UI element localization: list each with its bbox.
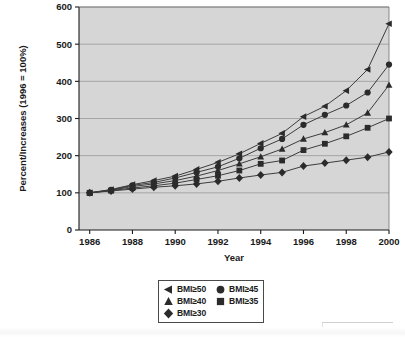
legend-grid: BMI≥50BMI≥45BMI≥40BMI≥35BMI≥30 bbox=[163, 284, 258, 319]
scan-artifact bbox=[0, 327, 405, 337]
legend-entry-0[interactable]: BMI≥50 bbox=[163, 284, 206, 295]
x-tick-label-1996: 1996 bbox=[293, 236, 314, 247]
legend-entry-4[interactable]: BMI≥30 bbox=[163, 308, 206, 319]
x-tick-label-1986: 1986 bbox=[79, 236, 100, 247]
scan-artifact-tick bbox=[322, 322, 393, 327]
marker-circle bbox=[279, 136, 285, 142]
x-tick-label-1990: 1990 bbox=[165, 236, 186, 247]
legend-marker-circle-icon bbox=[215, 284, 226, 295]
y-tick-label-500: 500 bbox=[56, 39, 72, 50]
x-tick-label-1998: 1998 bbox=[336, 236, 357, 247]
legend-entry-label: BMI≥40 bbox=[177, 296, 206, 307]
figure: 0100200300400500600198619881990199219941… bbox=[0, 0, 405, 337]
marker-circle bbox=[300, 122, 306, 128]
x-tick-label-1992: 1992 bbox=[207, 236, 228, 247]
legend-entry-1[interactable]: BMI≥45 bbox=[215, 284, 258, 295]
legend-entry-3[interactable]: BMI≥35 bbox=[215, 296, 258, 307]
marker-circle bbox=[386, 62, 392, 68]
x-axis-title: Year bbox=[224, 252, 244, 262]
marker-triangle bbox=[164, 297, 173, 305]
marker-square bbox=[322, 141, 328, 147]
x-tick-label-1994: 1994 bbox=[250, 236, 272, 247]
x-tick-label-1988: 1988 bbox=[122, 236, 143, 247]
marker-circle bbox=[217, 286, 225, 294]
marker-square bbox=[343, 133, 349, 139]
legend-entry-2[interactable]: BMI≥40 bbox=[163, 296, 206, 307]
y-tick-label-400: 400 bbox=[56, 76, 72, 87]
marker-square bbox=[301, 147, 307, 153]
marker-left-triangle bbox=[164, 285, 172, 293]
y-tick-label-100: 100 bbox=[56, 187, 72, 198]
legend-entry-label: BMI≥45 bbox=[229, 284, 258, 295]
legend-entry-label: BMI≥35 bbox=[229, 296, 258, 307]
y-tick-label-600: 600 bbox=[56, 1, 72, 12]
chart-legend: BMI≥50BMI≥45BMI≥40BMI≥35BMI≥30 bbox=[158, 280, 264, 323]
marker-square bbox=[258, 161, 264, 167]
marker-square bbox=[215, 173, 221, 179]
marker-circle bbox=[322, 112, 328, 118]
legend-entry-label: BMI≥30 bbox=[177, 308, 206, 319]
marker-circle bbox=[365, 89, 371, 95]
line-chart: 0100200300400500600198619881990199219941… bbox=[0, 0, 405, 262]
x-tick-label-2000: 2000 bbox=[378, 236, 399, 247]
legend-marker-square-icon bbox=[215, 296, 226, 307]
marker-square bbox=[365, 125, 371, 131]
legend-entry-label: BMI≥50 bbox=[177, 284, 206, 295]
marker-diamond bbox=[164, 309, 173, 319]
marker-circle bbox=[343, 102, 349, 108]
marker-square bbox=[279, 158, 285, 164]
y-tick-label-0: 0 bbox=[67, 224, 72, 235]
legend-marker-diamond-icon bbox=[163, 308, 174, 319]
plot-svg: 0100200300400500600198619881990199219941… bbox=[0, 0, 405, 262]
legend-marker-left-triangle-icon bbox=[163, 284, 174, 295]
y-tick-label-200: 200 bbox=[56, 150, 72, 161]
y-axis-title: Percent/Increases (1996 = 100%) bbox=[17, 45, 28, 192]
y-tick-label-300: 300 bbox=[56, 113, 72, 124]
marker-square bbox=[236, 168, 242, 174]
marker-square bbox=[217, 298, 224, 305]
legend-marker-triangle-icon bbox=[163, 296, 174, 307]
marker-square bbox=[386, 116, 392, 122]
